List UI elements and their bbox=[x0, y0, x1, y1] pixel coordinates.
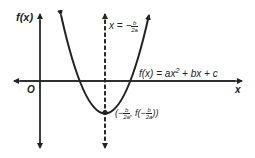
x-axis-label: x bbox=[235, 84, 241, 95]
function-label: f(x) = ax2 + bx + c bbox=[139, 67, 218, 79]
vertex-label: (−b2a, f(−b2a)) bbox=[115, 107, 158, 120]
quadratic-diagram: f(x) x O x = −b2a f(x) = ax2 + bx + c (−… bbox=[0, 0, 255, 158]
origin-label: O bbox=[27, 84, 35, 95]
y-axis-label: f(x) bbox=[16, 11, 33, 23]
vertex-point bbox=[103, 110, 108, 115]
axis-of-symmetry-label: x = −b2a bbox=[109, 20, 138, 33]
